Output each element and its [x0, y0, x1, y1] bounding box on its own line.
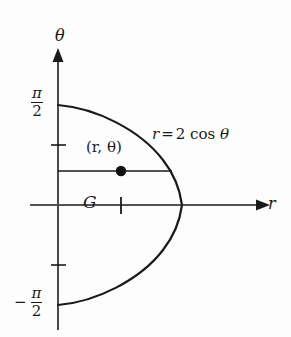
fraction-denominator: 2	[30, 103, 44, 119]
region-label-g: G	[83, 194, 97, 211]
equation-coefficient: 2	[176, 125, 186, 143]
figure-canvas	[0, 0, 291, 337]
equation-function: cos	[190, 125, 215, 143]
fraction-pi-over-2: π 2	[30, 86, 44, 119]
r-axis	[30, 200, 270, 211]
r-axis-label: r	[268, 196, 276, 212]
equation-variable: θ	[220, 125, 229, 143]
minus-sign: −	[14, 295, 30, 310]
theta-tick-label-negative-pi-over-2: − π 2	[14, 286, 43, 319]
equation-relation: =	[159, 125, 176, 143]
theta-axis-label: θ	[55, 28, 65, 44]
theta-axis	[53, 48, 64, 330]
curve-equation-label: r=2 cos θ	[152, 127, 229, 142]
sample-point-label: (r, θ)	[86, 140, 122, 155]
fraction-numerator: π	[30, 286, 44, 302]
fraction-denominator: 2	[30, 303, 44, 319]
polar-region-figure: θ r π 2 − π 2 G (r, θ) r=2 cos θ	[0, 0, 291, 337]
theta-tick-label-pi-over-2: π 2	[30, 86, 44, 119]
fraction-numerator: π	[30, 86, 44, 102]
fraction-pi-over-2: π 2	[30, 286, 44, 319]
sample-point-dot	[116, 166, 126, 176]
theta-axis-arrowhead	[53, 48, 64, 62]
